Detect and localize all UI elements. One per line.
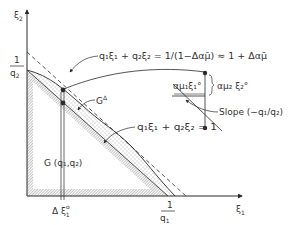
svg-text:1: 1: [167, 200, 173, 210]
budget-line-equation: q₁ξ₁ + q₂ξ₂ = 1: [137, 122, 217, 132]
diagram-canvas: ξ2 ξ1 1 q2 1 q1 q₁ξ₁ + q₂ξ₂ = 1/(1−Δαμ̄)…: [0, 0, 299, 225]
g-delta-label: GΔ: [96, 94, 108, 106]
outer-label-pointer: [70, 56, 98, 72]
inset-horizontal-label: αμ₁ξ₁°: [173, 81, 201, 91]
x-tick-1-over-q1: 1 q1: [160, 200, 175, 224]
y-axis-label: ξ2: [14, 10, 23, 22]
y-tick-1-over-q2: 1 q2: [10, 55, 24, 79]
g-region-label: G (q₁,q₂): [44, 158, 82, 168]
slope-label: Slope (−q₁/q₂): [219, 107, 283, 117]
outer-line-equation: q₁ξ₁ + q₂ξ₂ = 1/(1−Δαμ̄) ≈ 1 + Δαμ̄: [99, 51, 267, 61]
region-g-delta-stippled: [27, 70, 175, 196]
svg-text:q2: q2: [10, 68, 20, 79]
svg-text:1: 1: [14, 55, 20, 65]
point-budget: [61, 101, 66, 106]
delta-xi-label: Δ ξo1: [52, 203, 70, 218]
x-axis-label: ξ1: [236, 204, 245, 216]
svg-text:q1: q1: [160, 213, 170, 224]
inset-vertical-label: αμ₂ ξ₂°: [217, 81, 248, 91]
